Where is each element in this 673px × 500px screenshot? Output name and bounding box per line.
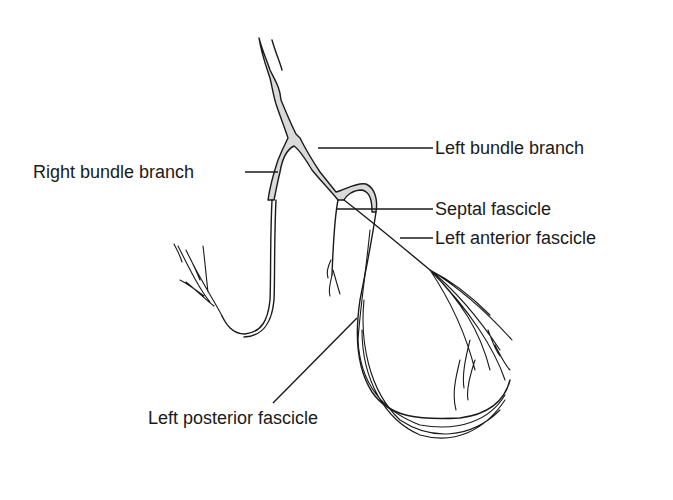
label-left-bundle-branch: Left bundle branch (435, 138, 584, 158)
label-septal-fascicle: Septal fascicle (435, 199, 551, 219)
right-bundle-branch-path (174, 200, 276, 337)
septal-fascicle-path (327, 200, 340, 296)
label-left-anterior-fascicle: Left anterior fascicle (435, 228, 596, 248)
conduction-diagram: Right bundle branch Left bundle branch S… (0, 0, 673, 500)
label-right-bundle-branch: Right bundle branch (33, 162, 194, 182)
leader-left-posterior-fascicle (273, 318, 357, 403)
label-left-posterior-fascicle: Left posterior fascicle (148, 408, 318, 428)
his-bundle (259, 38, 377, 212)
